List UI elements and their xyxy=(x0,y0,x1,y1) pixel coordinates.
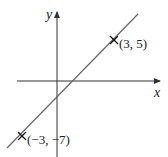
x-axis-label: x xyxy=(153,85,161,100)
cross-marker-icon xyxy=(110,36,118,44)
point-label-b: (−3, −7) xyxy=(27,132,70,147)
y-axis-label: y xyxy=(44,7,53,22)
coordinate-diagram: y x (3, 5) (−3, −7) xyxy=(0,0,168,157)
point-label-a: (3, 5) xyxy=(119,36,147,51)
